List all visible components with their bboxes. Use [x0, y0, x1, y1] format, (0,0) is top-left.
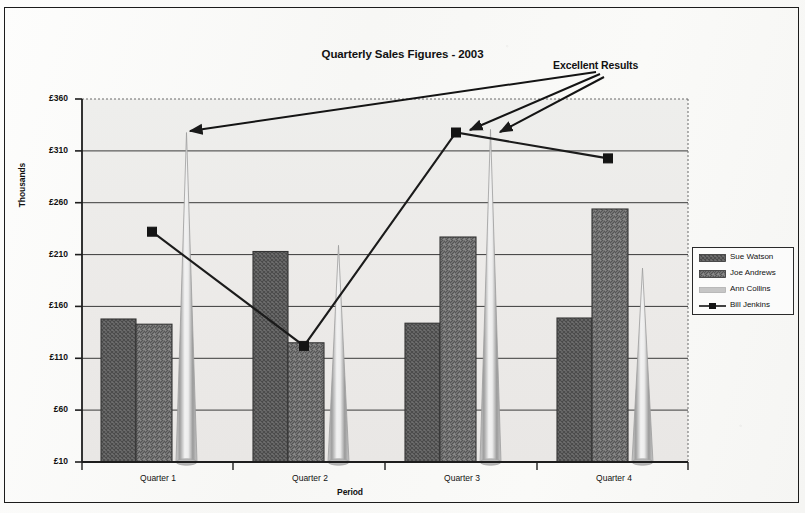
x-tick-label-quarter-2: Quarter 2 — [240, 473, 380, 483]
y-tick-label-310: £310 — [22, 145, 68, 155]
legend-label-joe-andrews: Joe Andrews — [730, 268, 776, 277]
legend-item-ann-collins: Ann Collins — [698, 283, 792, 297]
legend-label-sue-watson: Sue Watson — [730, 252, 773, 261]
y-tick-label-60: £60 — [22, 404, 68, 414]
y-tick-label-110: £110 — [22, 352, 68, 362]
legend-item-joe-andrews: Joe Andrews — [698, 267, 792, 281]
y-tick-label-210: £210 — [22, 249, 68, 259]
x-tick-label-quarter-1: Quarter 1 — [88, 473, 228, 483]
legend-swatch-sue-watson — [699, 254, 726, 262]
chart-title: Quarterly Sales Figures - 2003 — [0, 48, 805, 60]
x-tick-label-quarter-3: Quarter 3 — [392, 473, 532, 483]
y-tick-label-160: £160 — [22, 300, 68, 310]
y-tick-label-10: £10 — [22, 456, 68, 466]
legend-item-sue-watson: Sue Watson — [698, 251, 792, 265]
legend-label-ann-collins: Ann Collins — [730, 284, 770, 293]
legend-label-bill-jenkins: Bill Jenkins — [730, 300, 770, 309]
x-axis-label: Period — [0, 487, 700, 497]
legend-item-bill-jenkins: Bill Jenkins — [698, 299, 792, 313]
y-tick-label-360: £360 — [22, 93, 68, 103]
chart-canvas — [0, 0, 805, 513]
legend-swatch-joe-andrews — [699, 270, 726, 278]
annotation-excellent-results: Excellent Results — [553, 59, 638, 71]
x-tick-label-quarter-4: Quarter 4 — [544, 473, 684, 483]
legend-swatch-bill-jenkins — [699, 302, 726, 310]
legend-swatch-ann-collins — [699, 286, 726, 294]
y-tick-label-260: £260 — [22, 197, 68, 207]
chart-legend: Sue Watson Joe Andrews Ann Collins Bill … — [692, 247, 794, 315]
